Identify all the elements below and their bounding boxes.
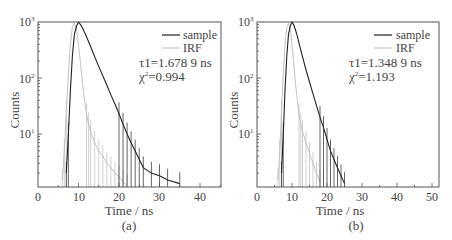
- chi-annotation-b: χ2=1.193: [348, 69, 395, 84]
- legend-label-irf: IRF: [183, 41, 202, 55]
- tau-annotation-b: τ1=1.348 9 ns: [349, 55, 422, 70]
- x-tick-label: 0: [35, 190, 41, 204]
- x-tick-label: 10: [286, 190, 298, 204]
- tau-annotation-a: τ1=1.678 9 ns: [139, 55, 212, 70]
- x-axis-label-a: Time / ns: [105, 203, 154, 218]
- x-tick-label: 50: [426, 190, 438, 204]
- x-tick-label: 20: [113, 190, 125, 204]
- plot-area-b: [278, 22, 345, 187]
- x-tick-label: 0: [254, 190, 260, 204]
- y-minor-ticks-a: [38, 25, 42, 174]
- legend-label-sample: sample: [183, 28, 217, 42]
- panel-a: 103 102 101 0 10 20 30 40 Time / ns Coun…: [7, 15, 221, 233]
- chi-annotation-a: χ2=0.994: [138, 69, 185, 84]
- plot-area-a: [62, 22, 180, 187]
- legend-b: sample IRF: [374, 28, 430, 55]
- y-tick-label: 103: [19, 15, 35, 29]
- legend-label-sample: sample: [396, 28, 430, 42]
- y-axis-label-a: Counts: [7, 92, 22, 129]
- legend-a: sample IRF: [162, 28, 217, 55]
- x-tick-label: 40: [391, 190, 403, 204]
- y-tick-label: 103: [238, 15, 254, 29]
- x-tick-label: 30: [356, 190, 368, 204]
- x-ticks-b: [275, 183, 433, 187]
- figure: 103 102 101 0 10 20 30 40 Time / ns Coun…: [0, 0, 452, 240]
- x-axis-label-b: Time / ns: [316, 203, 365, 218]
- x-tick-label: 20: [321, 190, 333, 204]
- y-tick-label: 102: [19, 72, 35, 86]
- x-tick-label: 40: [194, 190, 206, 204]
- y-tick-label: 102: [238, 72, 254, 86]
- x-tick-label: 30: [153, 190, 165, 204]
- panel-label-a: (a): [122, 218, 136, 233]
- legend-label-irf: IRF: [396, 41, 415, 55]
- panel-b: 103 102 101 0 10 20 30 40 50 Time / ns C…: [226, 15, 439, 233]
- y-axis-label-b: Counts: [226, 92, 241, 129]
- x-tick-label: 10: [73, 190, 85, 204]
- panel-label-b: (b): [348, 218, 363, 233]
- y-minor-ticks-b: [257, 25, 261, 174]
